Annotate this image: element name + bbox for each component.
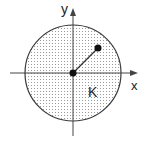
x-axis-label: x	[131, 79, 138, 92]
x-axis-arrow-icon	[130, 70, 138, 76]
center-point	[70, 70, 77, 77]
y-axis-arrow-icon	[70, 8, 76, 16]
region-label: K	[88, 85, 97, 99]
y-axis-label: y	[61, 2, 68, 16]
diagram-canvas: y x K	[0, 0, 146, 142]
boundary-point	[95, 45, 102, 52]
disk-diagram	[0, 0, 146, 142]
